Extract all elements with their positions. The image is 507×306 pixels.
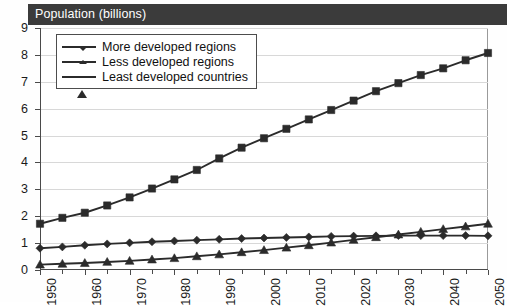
- x-axis-tick: [421, 270, 422, 274]
- data-point-marker: [126, 194, 133, 201]
- y-axis-label: 9: [0, 21, 28, 35]
- x-axis-label: 2030: [403, 278, 417, 306]
- x-axis-tick: [488, 270, 489, 275]
- data-point-marker: [440, 65, 447, 72]
- data-point-marker: [171, 176, 178, 183]
- y-axis-label: 1: [0, 236, 28, 250]
- x-axis-tick: [62, 270, 63, 274]
- x-axis-tick: [152, 270, 153, 274]
- data-point-marker: [193, 236, 201, 244]
- data-point-marker: [462, 57, 469, 64]
- x-axis-tick: [286, 270, 287, 274]
- x-axis-tick: [354, 270, 355, 275]
- data-point-marker: [395, 80, 402, 87]
- x-axis-tick: [219, 270, 220, 275]
- x-axis-tick: [242, 270, 243, 274]
- data-point-marker: [484, 49, 491, 56]
- data-point-marker: [260, 234, 268, 242]
- y-axis-label: 7: [0, 75, 28, 89]
- x-axis-label: 2050: [493, 278, 507, 306]
- x-axis-tick: [197, 270, 198, 274]
- data-point-marker: [484, 232, 492, 240]
- data-point-marker: [103, 240, 111, 248]
- x-axis-label: 1990: [224, 278, 238, 306]
- legend-label-least-developed-countries: Least developed countries: [102, 70, 248, 84]
- legend-item-less-developed-regions: Less developed regions: [62, 54, 248, 69]
- data-point-marker: [59, 214, 66, 221]
- data-point-marker: [170, 237, 178, 245]
- y-axis-label: 4: [0, 155, 28, 169]
- data-point-marker: [305, 116, 312, 123]
- page-title: Population (billions): [35, 7, 146, 21]
- square-marker-icon: [62, 55, 96, 69]
- data-point-marker: [372, 88, 379, 95]
- data-point-marker: [81, 241, 89, 249]
- x-axis-label: 1980: [179, 278, 193, 306]
- x-axis-tick: [174, 270, 175, 275]
- data-point-marker: [305, 233, 313, 241]
- x-axis-label: 1970: [135, 278, 149, 306]
- legend-label-more-developed-regions: More developed regions: [102, 40, 236, 54]
- data-point-marker: [215, 235, 223, 243]
- x-axis-tick: [107, 270, 108, 274]
- x-axis-label: 1960: [90, 278, 104, 306]
- data-point-marker: [216, 155, 223, 162]
- data-point-marker: [36, 220, 43, 227]
- data-point-marker: [260, 135, 267, 142]
- data-point-marker: [148, 185, 155, 192]
- data-point-marker: [417, 71, 424, 78]
- x-axis-label: 2010: [314, 278, 328, 306]
- data-point-marker: [36, 244, 44, 252]
- data-point-marker: [238, 235, 246, 243]
- y-axis-label: 8: [0, 48, 28, 62]
- x-axis-tick: [264, 270, 265, 275]
- x-axis-tick: [466, 270, 467, 274]
- y-axis-label: 6: [0, 102, 28, 116]
- x-axis-tick: [331, 270, 332, 274]
- x-axis-tick: [376, 270, 377, 274]
- data-point-marker: [282, 233, 290, 241]
- data-point-marker: [350, 97, 357, 104]
- chart-legend: More developed regions Less developed re…: [56, 34, 257, 89]
- y-axis-label: 5: [0, 129, 28, 143]
- data-point-marker: [283, 125, 290, 132]
- diamond-marker-icon: [62, 40, 96, 54]
- legend-item-more-developed-regions: More developed regions: [62, 39, 248, 54]
- y-axis-label: 2: [0, 209, 28, 223]
- data-point-marker: [104, 202, 111, 209]
- data-point-marker: [148, 238, 156, 246]
- data-point-marker: [126, 239, 134, 247]
- x-axis-tick: [398, 270, 399, 275]
- plot-area: More developed regions Less developed re…: [40, 28, 488, 270]
- x-axis-label: 1950: [45, 278, 59, 306]
- legend-label-less-developed-regions: Less developed regions: [102, 55, 234, 69]
- x-axis-label: 2020: [359, 278, 373, 306]
- x-axis-tick: [130, 270, 131, 275]
- data-point-marker: [328, 106, 335, 113]
- data-point-marker: [238, 144, 245, 151]
- x-axis-label: 2040: [448, 278, 462, 306]
- data-point-marker: [193, 166, 200, 173]
- x-axis-tick: [85, 270, 86, 275]
- x-axis-tick: [443, 270, 444, 275]
- y-axis-label: 3: [0, 182, 28, 196]
- triangle-marker-icon: [62, 70, 96, 84]
- x-axis-label: 2000: [269, 278, 283, 306]
- data-point-marker: [58, 243, 66, 251]
- data-point-marker: [81, 209, 88, 216]
- chart-title-band: Population (billions): [28, 4, 507, 25]
- legend-item-least-developed-countries: Least developed countries: [62, 69, 248, 84]
- data-point-marker: [462, 232, 470, 240]
- x-axis-tick: [309, 270, 310, 275]
- y-axis-label: 0: [0, 263, 28, 277]
- x-axis-tick: [40, 270, 41, 275]
